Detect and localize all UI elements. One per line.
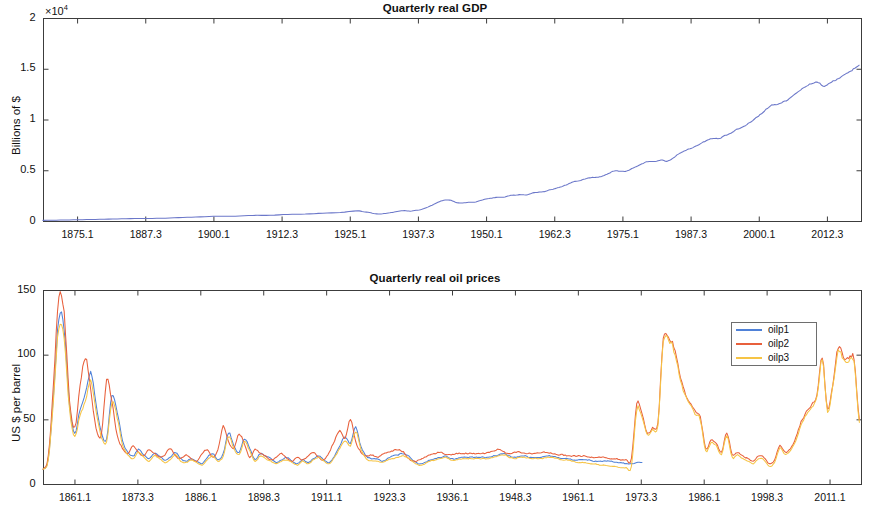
y-tick-label: 150 xyxy=(0,283,36,295)
y-axis-label-gdp: Billions of $ xyxy=(10,96,22,155)
x-tick-label: 1911.1 xyxy=(292,491,362,503)
axis-frame-gdp xyxy=(44,19,862,222)
y-axis-exponent-power: 4 xyxy=(64,3,68,12)
series-group-oil xyxy=(43,292,859,471)
x-tick-label: 1898.3 xyxy=(229,491,299,503)
y-tick-label: 0 xyxy=(0,477,36,489)
x-tick-label: 1912.3 xyxy=(247,228,317,240)
y-tick-label: 0.5 xyxy=(0,163,36,175)
legend-label: oilp3 xyxy=(768,351,789,365)
y-axis-label-oil: US $ per barrel xyxy=(10,364,22,442)
y-tick-label: 1 xyxy=(0,112,36,124)
series-line-real GDP xyxy=(43,65,859,220)
chart-panel-gdp: Quarterly real GDP Billions of $ ×104 18… xyxy=(0,0,870,250)
y-tick-label: 100 xyxy=(0,347,36,359)
x-tick-label: 1973.3 xyxy=(606,491,676,503)
x-tick-label: 1961.1 xyxy=(543,491,613,503)
axis-ticks-gdp xyxy=(44,19,862,222)
x-tick-label: 1948.3 xyxy=(480,491,550,503)
x-tick-label: 2000.1 xyxy=(724,228,794,240)
x-tick-label: 1975.1 xyxy=(588,228,658,240)
legend-swatch-oilp2 xyxy=(736,343,762,345)
y-tick-label: 2 xyxy=(0,11,36,23)
series-line-oilp2 xyxy=(43,292,859,470)
x-tick-label: 1950.1 xyxy=(452,228,522,240)
x-tick-label: 1886.1 xyxy=(166,491,236,503)
x-tick-label: 1887.3 xyxy=(111,228,181,240)
chart-title-oil: Quarterly real oil prices xyxy=(0,272,870,284)
legend-swatch-oilp3 xyxy=(736,357,762,359)
y-tick-label: 0 xyxy=(0,214,36,226)
x-tick-label: 1873.3 xyxy=(103,491,173,503)
x-tick-label: 1875.1 xyxy=(43,228,113,240)
y-tick-label: 1.5 xyxy=(0,61,36,73)
figure-root: Quarterly real GDP Billions of $ ×104 18… xyxy=(0,0,870,514)
plot-area-gdp xyxy=(0,0,870,250)
x-tick-label: 2011.1 xyxy=(795,491,865,503)
x-tick-label: 1861.1 xyxy=(40,491,110,503)
legend-item-oilp1[interactable]: oilp1 xyxy=(732,323,816,337)
chart-title-gdp: Quarterly real GDP xyxy=(0,2,870,14)
x-tick-label: 1987.3 xyxy=(656,228,726,240)
y-tick-label: 50 xyxy=(0,412,36,424)
x-tick-label: 1900.1 xyxy=(179,228,249,240)
legend-item-oilp3[interactable]: oilp3 xyxy=(732,351,816,365)
chart-panel-oil: Quarterly real oil prices US $ per barre… xyxy=(0,264,870,514)
legend-swatch-oilp1 xyxy=(736,329,762,331)
legend-label: oilp2 xyxy=(768,337,789,351)
y-axis-exponent-gdp: ×104 xyxy=(45,3,68,17)
x-tick-label: 1925.1 xyxy=(315,228,385,240)
legend-item-oilp2[interactable]: oilp2 xyxy=(732,337,816,351)
x-tick-label: 1936.1 xyxy=(418,491,488,503)
series-group-gdp xyxy=(43,65,859,220)
x-tick-label: 1923.3 xyxy=(355,491,425,503)
x-tick-label: 1986.1 xyxy=(669,491,739,503)
x-tick-label: 1962.3 xyxy=(520,228,590,240)
plot-area-oil xyxy=(0,264,870,514)
x-tick-label: 1937.3 xyxy=(383,228,453,240)
x-tick-label: 2012.3 xyxy=(792,228,862,240)
legend-oil: oilp1oilp2oilp3 xyxy=(731,322,817,366)
x-tick-label: 1998.3 xyxy=(732,491,802,503)
legend-label: oilp1 xyxy=(768,323,789,337)
y-axis-exponent-base: ×10 xyxy=(45,5,64,17)
